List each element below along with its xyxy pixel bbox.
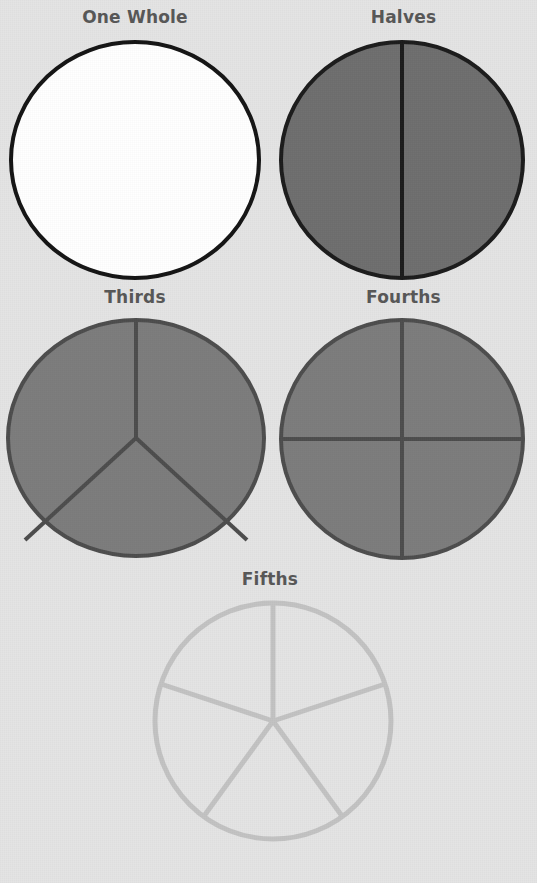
- fraction-circle-fourths: Fourths: [270, 286, 537, 574]
- divider-line-upper-right-fifths: [273, 684, 385, 721]
- figure-thirds: [4, 314, 268, 562]
- fourths-diagram: [278, 314, 528, 564]
- fifths-diagram: [151, 598, 395, 844]
- figure-fourths: [278, 314, 528, 564]
- fraction-circle-one-whole: One Whole: [0, 6, 270, 294]
- fraction-label-thirds: Thirds: [0, 286, 270, 308]
- fraction-label-fourths: Fourths: [270, 286, 537, 308]
- fraction-label-halves: Halves: [270, 6, 537, 28]
- figure-halves: [278, 36, 528, 284]
- one-whole-diagram: [7, 34, 263, 286]
- halves-diagram: [278, 36, 528, 284]
- fraction-circle-fifths: Fifths: [135, 568, 405, 868]
- thirds-diagram: [4, 314, 268, 562]
- circle-outline-one-whole: [11, 42, 259, 278]
- divider-line-lower-right-fifths: [273, 721, 342, 816]
- figure-one-whole: [7, 34, 263, 286]
- figure-fifths: [151, 598, 395, 844]
- fraction-label-one-whole: One Whole: [0, 6, 270, 28]
- divider-line-lower-left-fifths: [204, 721, 273, 816]
- fraction-circle-thirds: Thirds: [0, 286, 270, 574]
- fraction-circle-halves: Halves: [270, 6, 537, 294]
- fraction-label-fifths: Fifths: [135, 568, 405, 590]
- divider-line-upper-left-fifths: [161, 684, 273, 721]
